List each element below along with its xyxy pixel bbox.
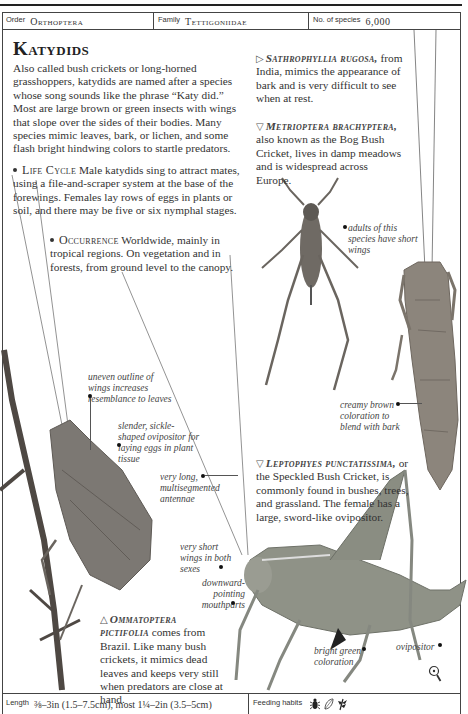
- leader-dot: [362, 647, 366, 651]
- leader-dot: [231, 601, 235, 605]
- bullet-icon: [13, 168, 17, 172]
- leader-line: [90, 398, 91, 450]
- footer: Length ⅜–3in (1.5–7.5cm), most 1¼–2in (3…: [2, 693, 461, 714]
- down-arrow-icon: ▽: [256, 458, 264, 469]
- annotation-uneven-outline: uneven outline of wings increases resemb…: [88, 372, 174, 405]
- metrioptera-illustration: [262, 178, 358, 390]
- leader-dot: [117, 443, 121, 447]
- insect-icon: [309, 697, 321, 711]
- leader-dot: [343, 225, 347, 229]
- life-cycle-section: Life Cycle Male katydids sing to attract…: [13, 164, 243, 218]
- up-arrow-icon: △: [100, 614, 108, 625]
- leader-dot: [219, 565, 223, 569]
- annotation-short-wings: adults of this species have short wings: [348, 223, 420, 256]
- feeding-label: Feeding habits: [253, 698, 302, 707]
- leader-line: [400, 403, 422, 404]
- species-name: Sathrophyllia rugosa,: [266, 52, 378, 64]
- annotation-sickle-ovipositor: slender, sickle-shaped ovipositor for la…: [118, 421, 200, 465]
- down-arrow-icon: ▽: [256, 121, 264, 132]
- right-arrow-icon: ▷: [256, 53, 264, 64]
- plant-icon: [337, 697, 349, 711]
- leaf-icon: [323, 697, 335, 711]
- length-label: Length: [6, 698, 29, 707]
- bullet-icon: [50, 238, 54, 242]
- page-title: Katydids: [13, 38, 89, 60]
- annotation-mouthparts: downward-pointing mouthparts: [185, 578, 245, 611]
- feeding-cell: Feeding habits: [249, 694, 349, 714]
- caption-sathrophyllia: ▷Sathrophyllia rugosa, from India, mimic…: [256, 52, 404, 106]
- length-value: ⅜–3in (1.5–7.5cm), most 1¼–2in (3.5–5cm): [34, 699, 212, 710]
- species-name: Metrioptera brachyptera,: [266, 120, 397, 132]
- intro-paragraph: Also called bush crickets or long-horned…: [13, 62, 243, 156]
- leader-line: [205, 475, 238, 476]
- occurrence-heading: Occurrence: [59, 233, 119, 247]
- magnifier-icon[interactable]: [428, 665, 442, 683]
- sathrophyllia-illustration: [392, 262, 458, 490]
- species-name: Leptophyes punctatissima,: [266, 457, 396, 469]
- length-cell: Length ⅜–3in (1.5–7.5cm), most 1¼–2in (3…: [2, 694, 249, 714]
- species-description: also known as the Bog Bush Cricket, live…: [256, 133, 401, 185]
- leader-dot: [438, 643, 442, 647]
- caption-metrioptera: ▽Metrioptera brachyptera, also known as …: [256, 120, 406, 187]
- caption-leptophyes: ▽Leptophyes punctatissima, or the Speckl…: [256, 457, 414, 524]
- annotation-very-short-wings: very short wings in both sexes: [180, 542, 232, 575]
- life-cycle-heading: Life Cycle: [22, 163, 76, 177]
- occurrence-section: Occurrence Worldwide, mainly in tropical…: [50, 234, 242, 274]
- annotation-long-antennae: very long, multisegmented antennae: [160, 472, 222, 505]
